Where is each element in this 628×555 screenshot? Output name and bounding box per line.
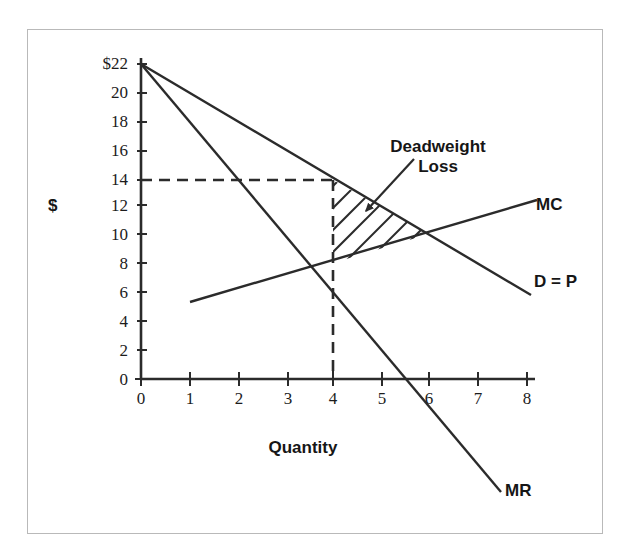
deadweight-loss-annotation: Deadweight Loss: [380, 137, 496, 177]
x-tick-label-2: 2: [219, 389, 259, 409]
marginal-revenue-line: [141, 64, 501, 492]
economics-chart-figure: $22 20 18 16 14 12 10 8 6 4 2 0 0 1 2 3 …: [0, 0, 628, 555]
mc-curve-label: MC: [536, 195, 562, 215]
y-tick-label-20: 20: [62, 83, 128, 103]
deadweight-loss-line2: Loss: [380, 157, 496, 177]
y-tick-label-8: 8: [62, 254, 128, 274]
demand-curve-label: D = P: [534, 272, 577, 292]
y-tick-label-4: 4: [62, 312, 128, 332]
y-tick-label-22: $22: [62, 54, 128, 74]
y-tick-label-6: 6: [62, 283, 128, 303]
x-tick-label-6: 6: [409, 389, 449, 409]
y-tick-label-12: 12: [62, 196, 128, 216]
x-tick-label-1: 1: [170, 389, 210, 409]
y-axis-title: $: [48, 196, 57, 216]
x-axis-title: Quantity: [255, 438, 351, 458]
y-tick-label-0: 0: [62, 370, 128, 390]
x-tick-label-4: 4: [313, 389, 353, 409]
x-tick-label-8: 8: [507, 389, 547, 409]
y-tick-label-16: 16: [62, 141, 128, 161]
mr-curve-label: MR: [505, 481, 531, 501]
y-tick-label-18: 18: [62, 112, 128, 132]
y-tick-label-10: 10: [62, 225, 128, 245]
x-tick-label-0: 0: [121, 389, 161, 409]
x-tick-label-3: 3: [268, 389, 308, 409]
deadweight-loss-line1: Deadweight: [390, 137, 485, 156]
marginal-cost-line: [190, 200, 537, 302]
x-tick-label-5: 5: [362, 389, 402, 409]
y-tick-label-2: 2: [62, 341, 128, 361]
x-tick-label-7: 7: [458, 389, 498, 409]
y-tick-label-14: 14: [62, 170, 128, 190]
